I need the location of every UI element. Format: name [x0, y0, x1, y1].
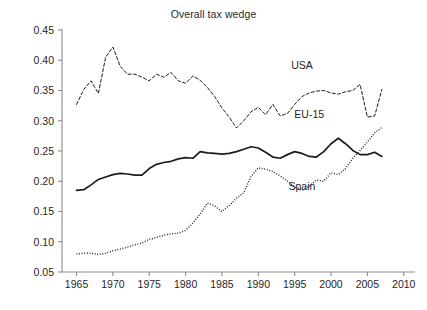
y-tick-label: 0.15	[34, 205, 55, 217]
y-tick-label: 0.10	[34, 236, 55, 248]
y-tick-label: 0.35	[34, 84, 55, 96]
y-tick-label: 0.40	[34, 54, 55, 66]
x-tick-label: 1990	[247, 278, 271, 290]
x-tick-label: 1965	[65, 278, 89, 290]
y-tick-label: 0.05	[34, 266, 55, 278]
x-tick-label: 2005	[356, 278, 380, 290]
x-tick-label: 2000	[319, 278, 343, 290]
series-line-usa	[77, 47, 382, 128]
y-tick-label: 0.30	[34, 115, 55, 127]
x-tick-label: 1985	[210, 278, 234, 290]
chart-figure: Overall tax wedge 0.050.100.150.200.250.…	[0, 0, 427, 310]
y-tick-label: 0.25	[34, 145, 55, 157]
series-label-spain: Spain	[289, 180, 316, 192]
series-line-eu-15	[77, 138, 382, 190]
y-tick-label: 0.45	[34, 24, 55, 36]
x-tick-label: 1995	[283, 278, 307, 290]
series-label-usa: USA	[291, 59, 313, 71]
x-tick-label: 1975	[138, 278, 162, 290]
y-tick-label: 0.20	[34, 175, 55, 187]
x-tick-label: 1980	[174, 278, 198, 290]
x-tick-label: 2010	[392, 278, 416, 290]
series-line-spain	[77, 127, 382, 254]
chart-plot-area: 0.050.100.150.200.250.300.350.400.451965…	[0, 0, 427, 310]
series-label-eu-15: EU-15	[294, 108, 324, 120]
x-tick-label: 1970	[101, 278, 125, 290]
chart-title: Overall tax wedge	[0, 8, 427, 20]
